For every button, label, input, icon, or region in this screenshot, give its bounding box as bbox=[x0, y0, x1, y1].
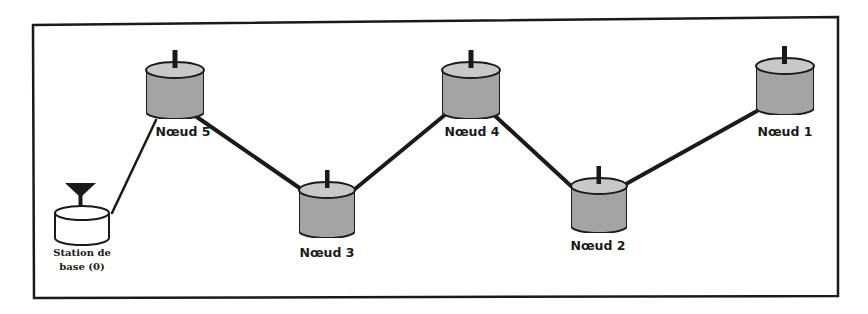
node-5: Nœud 5 bbox=[146, 50, 211, 139]
node-2: Nœud 2 bbox=[570, 166, 627, 253]
diagram-frame bbox=[33, 17, 838, 298]
node-4: Nœud 4 bbox=[442, 50, 500, 139]
link-n4-n2 bbox=[493, 114, 571, 186]
link-base-n5 bbox=[112, 120, 156, 213]
antenna-stub-icon bbox=[782, 46, 787, 64]
antenna-stub-icon bbox=[325, 170, 330, 188]
node-3: Nœud 3 bbox=[299, 170, 355, 260]
link-n3-n4 bbox=[355, 114, 446, 189]
antenna-stub-icon bbox=[173, 50, 178, 68]
base-station-node: Station de base (0) bbox=[53, 183, 111, 272]
node-5-label: Nœud 5 bbox=[155, 124, 210, 139]
node-3-label: Nœud 3 bbox=[299, 245, 354, 260]
node-1: Nœud 1 bbox=[756, 46, 814, 139]
base-label-line1: Station de bbox=[53, 247, 111, 258]
node-4-label: Nœud 4 bbox=[444, 124, 499, 139]
node-1-label: Nœud 1 bbox=[757, 124, 812, 139]
link-n2-n1 bbox=[626, 111, 757, 184]
network-diagram: Station de base (0) Nœud 5 Nœud 3 Nœud 4… bbox=[0, 0, 868, 314]
node-2-label: Nœud 2 bbox=[570, 238, 625, 253]
antenna-stub-icon bbox=[469, 50, 474, 68]
antenna-stub-icon bbox=[597, 166, 602, 184]
base-label-line2: base (0) bbox=[59, 261, 104, 272]
